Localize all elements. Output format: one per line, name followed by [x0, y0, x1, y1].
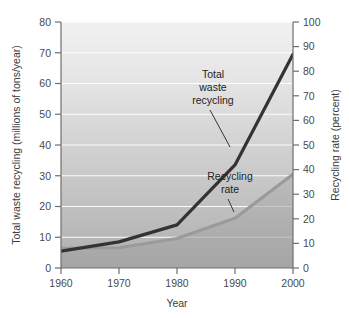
right-tick-30: 30: [303, 188, 315, 200]
x-tick-1980: 1980: [165, 277, 189, 289]
chart-figure: 80 70 60 50 40 30 20 10 0 100 9: [0, 0, 349, 318]
annotation-rate-line-2: rate: [221, 183, 239, 195]
left-axis-tick-labels: 80 70 60 50 40 30 20 10 0: [39, 16, 51, 274]
right-tick-0: 0: [303, 262, 309, 274]
left-tick-50: 50: [39, 108, 51, 120]
left-tick-0: 0: [45, 262, 51, 274]
left-axis-title: Total waste recycling (millions of tons/…: [10, 45, 22, 245]
right-tick-10: 10: [303, 237, 315, 249]
left-tick-70: 70: [39, 47, 51, 59]
right-tick-20: 20: [303, 213, 315, 225]
right-tick-70: 70: [303, 90, 315, 102]
right-tick-50: 50: [303, 139, 315, 151]
left-tick-20: 20: [39, 200, 51, 212]
x-tick-1970: 1970: [107, 277, 131, 289]
left-tick-30: 30: [39, 170, 51, 182]
annotation-total-line-3: recycling: [192, 94, 234, 106]
right-tick-60: 60: [303, 114, 315, 126]
right-tick-90: 90: [303, 40, 315, 52]
left-tick-60: 60: [39, 77, 51, 89]
left-tick-40: 40: [39, 139, 51, 151]
annotation-total-line-1: Total: [202, 68, 224, 80]
left-tick-10: 10: [39, 231, 51, 243]
annotation-total-line-2: waste: [198, 81, 227, 93]
annotation-rate-line-1: Recycling: [207, 170, 253, 182]
right-tick-40: 40: [303, 163, 315, 175]
right-axis-title: Recycling rate (percent): [329, 89, 341, 200]
chart-svg: 80 70 60 50 40 30 20 10 0 100 9: [0, 0, 349, 318]
x-axis-title: Year: [166, 297, 188, 309]
x-tick-1960: 1960: [49, 277, 73, 289]
left-tick-80: 80: [39, 16, 51, 28]
x-tick-2000: 2000: [281, 277, 305, 289]
right-tick-100: 100: [303, 16, 321, 28]
x-tick-1990: 1990: [223, 277, 247, 289]
right-tick-80: 80: [303, 65, 315, 77]
